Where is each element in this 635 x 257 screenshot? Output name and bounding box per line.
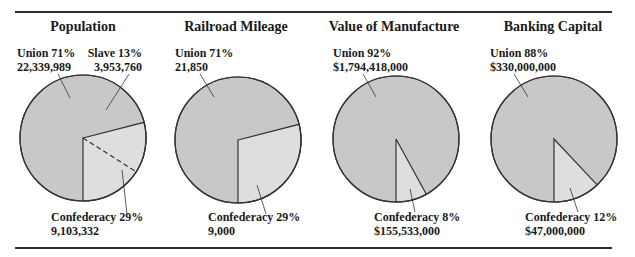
label-union-value: 21,850 — [175, 60, 208, 74]
label-union-value: $1,794,418,000 — [333, 60, 408, 74]
chart-title-banking: Banking Capital — [504, 19, 603, 34]
pie-railroad — [175, 74, 301, 214]
label-union-pct: Union 71% — [175, 46, 233, 60]
label-confederacy-value: 9,103,332 — [51, 224, 99, 238]
label-confederacy-value: $47,000,000 — [525, 224, 585, 238]
label-union-pct: Union 71% — [17, 46, 75, 60]
pie-banking — [491, 74, 617, 212]
label-confederacy-pct: Confederacy 29% — [208, 210, 300, 224]
label-union-value: 22,339,989 — [17, 60, 71, 74]
chart-title-manufacture: Value of Manufacture — [329, 19, 460, 34]
label-confederacy-value: 9,000 — [208, 224, 235, 238]
chart-title-railroad: Railroad Mileage — [184, 19, 288, 34]
label-slave-pct: Slave 13% — [88, 46, 142, 60]
chart-title-population: Population — [50, 19, 116, 34]
label-confederacy-pct: Confederacy 29% — [51, 210, 143, 224]
label-confederacy-pct: Confederacy 12% — [525, 210, 617, 224]
label-union-pct: Union 88% — [490, 46, 548, 60]
label-union-value: $330,000,000 — [490, 60, 556, 74]
label-union-pct: Union 92% — [333, 46, 391, 60]
pie-manufacture — [333, 74, 459, 212]
pie-population — [20, 74, 146, 214]
label-confederacy-pct: Confederacy 8% — [374, 210, 460, 224]
label-confederacy-value: $155,533,000 — [374, 224, 440, 238]
pie-charts: Population Railroad Mileage Value of Man… — [0, 0, 635, 257]
label-slave-value: 3,953,760 — [94, 60, 142, 74]
